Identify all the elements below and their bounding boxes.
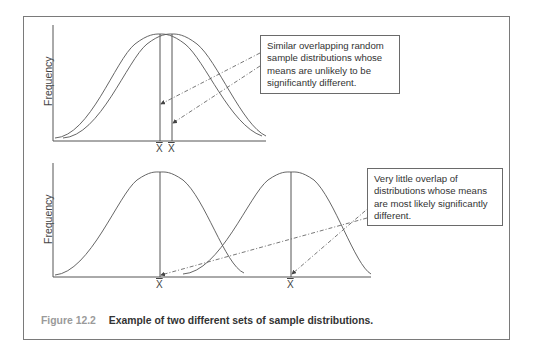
bottom-mean-label-2: X (287, 279, 294, 290)
bottom-curves (55, 172, 371, 275)
top-mean-label-1: X (156, 143, 163, 154)
figure-caption: Figure 12.2 Example of two different set… (41, 315, 373, 326)
callout-line: are most likely significantly (374, 198, 496, 210)
top-mean-label-2: X (168, 143, 175, 154)
callout-line: sample distributions whose (267, 52, 393, 64)
callout-line: Similar overlapping random (267, 40, 393, 52)
figure-number: Figure 12.2 (41, 315, 96, 326)
top-mean-lines (160, 34, 172, 141)
bottom-axes (53, 163, 371, 277)
bottom-callout-box: Very little overlap of distributions who… (367, 168, 503, 226)
bottom-mean-lines (160, 172, 291, 277)
top-callout-box: Similar overlapping random sample distri… (260, 35, 400, 94)
callout-line: Very little overlap of (374, 173, 496, 185)
bottom-mean-label-1: X (156, 279, 163, 290)
bottom-arrows (161, 205, 372, 275)
figure-caption-text: Example of two different sets of sample … (109, 315, 373, 326)
callout-line: means are unlikely to be (267, 65, 393, 77)
bottom-y-axis-label: Frequency (42, 194, 54, 244)
callout-line: different. (374, 210, 496, 222)
top-y-axis-label: Frequency (42, 56, 54, 106)
callout-line: significantly different. (267, 77, 393, 89)
callout-line: distributions whose means (374, 185, 496, 197)
top-arrows (161, 53, 260, 123)
